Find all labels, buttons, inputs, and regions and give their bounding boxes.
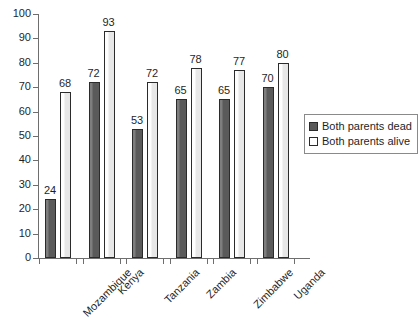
legend-label: Both parents dead <box>322 121 412 132</box>
legend-item: Both parents alive <box>309 134 412 149</box>
legend-swatch-dead <box>309 122 318 131</box>
x-axis-label: Uganda <box>291 266 327 302</box>
x-axis-label: Zimbabwe <box>251 266 295 310</box>
legend-item: Both parents dead <box>309 119 412 134</box>
x-axis-labels: MozambiqueKenyaTanzaniaZambiaZimbabweUga… <box>0 0 419 321</box>
legend-label: Both parents alive <box>322 136 410 147</box>
bar-chart: 1009080706050403020100 24687293537265786… <box>0 0 419 321</box>
legend-swatch-alive <box>309 137 318 146</box>
x-axis-label: Zambia <box>203 266 237 300</box>
x-axis-label: Tanzania <box>162 266 202 306</box>
chart-legend: Both parents deadBoth parents alive <box>304 114 418 154</box>
